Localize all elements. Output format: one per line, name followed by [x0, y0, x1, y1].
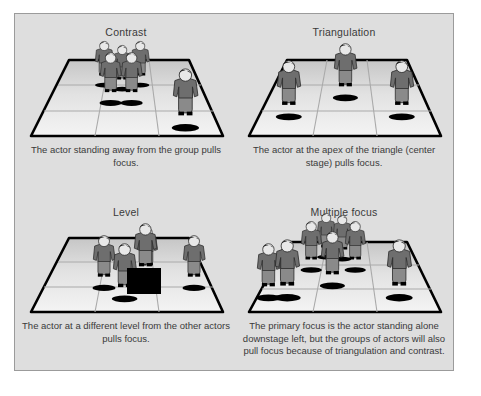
platform-box	[127, 268, 161, 294]
stage-diagram-level	[17, 212, 235, 322]
stage-contrast	[17, 34, 235, 146]
panel-contrast: Contrast	[17, 16, 235, 194]
panel-caption-contrast: The actor standing away from the group p…	[21, 144, 231, 169]
panel-caption-triangulation: The actor at the apex of the triangle (c…	[239, 144, 449, 169]
stage-diagram-triangulation	[235, 34, 453, 146]
stage-diagram-multiple-focus	[235, 212, 453, 322]
panel-triangulation: Triangulation	[235, 16, 453, 194]
panel-level: Level	[17, 194, 235, 370]
panel-multiple-focus: Multiple focus	[235, 194, 453, 370]
stage-diagram-contrast	[17, 34, 235, 146]
figure-page: Contrast	[0, 0, 481, 396]
panel-caption-multiple-focus: The primary focus is the actor standing …	[239, 320, 449, 358]
panel-caption-level: The actor at a different level from the …	[21, 320, 231, 345]
stage-triangulation	[235, 34, 453, 146]
stage-focus-diagram-panel: Contrast	[14, 13, 454, 371]
stage-level	[17, 212, 235, 322]
stage-multiple-focus	[235, 212, 453, 322]
